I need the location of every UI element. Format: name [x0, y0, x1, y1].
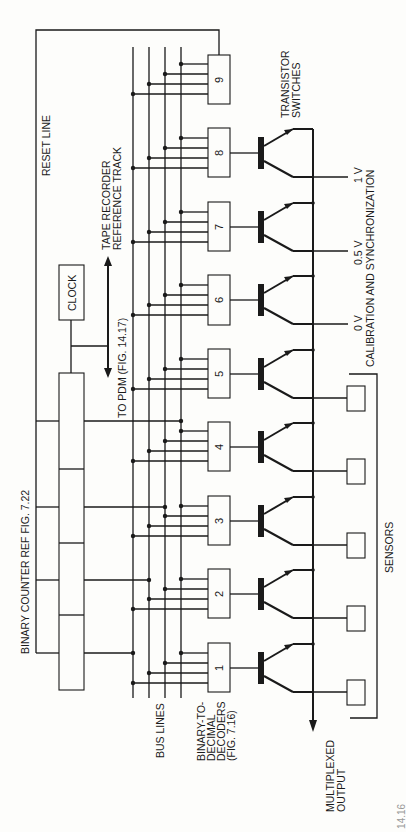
voltage-0v-label: 0 V — [352, 315, 364, 331]
reference-track-label: REFERENCE TRACK — [111, 147, 123, 250]
to-pdm-label: TO PDM (FIG. 14.17) — [116, 318, 128, 418]
multiplexer-diagram: 9 8 7 6 5 4 3 2 1 — [0, 0, 406, 832]
decoders-label-4: (FIG. 7.16) — [225, 710, 237, 761]
decoder-label-4: 4 — [213, 444, 225, 450]
decoder-label-6: 6 — [213, 297, 225, 303]
sensors — [313, 374, 377, 718]
decoder-label-7: 7 — [213, 224, 225, 230]
multiplexed-output-bus — [309, 129, 317, 732]
figure-caption: Figure 14.16 — [396, 803, 406, 832]
transistor-switches — [230, 129, 313, 692]
bus-lines-label: BUS LINES — [154, 703, 166, 758]
voltage-1v-label: 1 V — [352, 167, 364, 183]
decoder-label-3: 3 — [213, 518, 225, 524]
decoder-label-8: 8 — [213, 150, 225, 156]
clock-label: CLOCK — [66, 275, 78, 311]
multiplexed-output-label-2: OUTPUT — [335, 768, 347, 812]
voltage-05v-label: 0.5 V — [352, 240, 364, 265]
decoder-label-5: 5 — [213, 371, 225, 377]
transistor-switches-label-2: SWITCHES — [290, 63, 302, 118]
pdm-tape-arrow — [104, 256, 112, 378]
decoder-inputs — [131, 62, 208, 685]
binary-counter-label: BINARY COUNTER REF FIG. 7.22 — [19, 490, 31, 654]
decoder-label-9: 9 — [213, 77, 225, 83]
reference-voltages — [313, 177, 348, 324]
decoder-label-2: 2 — [213, 591, 225, 597]
reset-line-label: RESET LINE — [40, 115, 52, 176]
calibration-label: CALIBRATION AND SYNCHRONIZATION — [364, 170, 376, 367]
sensors-label: SENSORS — [383, 522, 395, 573]
bus-lines — [133, 47, 181, 698]
decoder-label-1: 1 — [213, 665, 225, 671]
